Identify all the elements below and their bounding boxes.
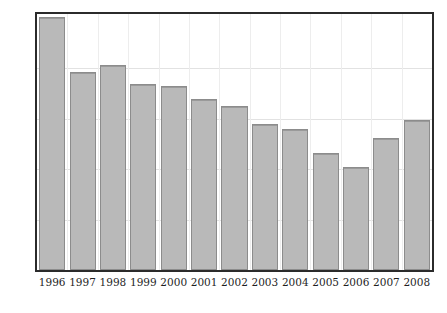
bar-2006 [343,167,369,270]
x-tick-label-2005: 2005 [310,275,340,289]
bar-2004 [282,129,308,270]
x-tick-label-2000: 2000 [159,275,189,289]
horizontal-gridline [37,68,432,69]
bar-1996 [39,17,65,270]
plot-area [37,14,432,270]
x-tick-label-1997: 1997 [67,275,97,289]
vertical-gridline [67,14,68,270]
bar-1999 [130,84,156,270]
vertical-gridline [371,14,372,270]
bar-2005 [313,153,339,270]
figure-caption [0,300,447,313]
vertical-gridline [189,14,190,270]
vertical-gridline [341,14,342,270]
x-tick-label-2002: 2002 [219,275,249,289]
x-tick-label-2007: 2007 [371,275,401,289]
vertical-gridline [128,14,129,270]
bar-2007 [373,138,399,270]
bar-2000 [161,86,187,270]
bar-2001 [191,99,217,270]
bar-2002 [221,106,247,270]
x-tick-label-2004: 2004 [280,275,310,289]
bar-2008 [404,120,430,270]
x-tick-label-1996: 1996 [37,275,67,289]
bar-1997 [70,72,96,270]
x-tick-label-2001: 2001 [189,275,219,289]
plot-frame [35,12,434,272]
x-tick-label-1999: 1999 [128,275,158,289]
vertical-gridline [219,14,220,270]
x-tick-label-1998: 1998 [98,275,128,289]
vertical-gridline [98,14,99,270]
bar-chart-figure: 05101520 1996199719981999200020012002200… [0,0,447,313]
x-tick-label-2006: 2006 [341,275,371,289]
x-tick-label-2008: 2008 [402,275,432,289]
bar-2003 [252,124,278,270]
bar-1998 [100,65,126,270]
vertical-gridline [310,14,311,270]
vertical-gridline [280,14,281,270]
x-tick-label-2003: 2003 [250,275,280,289]
x-axis-tick-labels: 1996199719981999200020012002200320042005… [35,275,434,291]
